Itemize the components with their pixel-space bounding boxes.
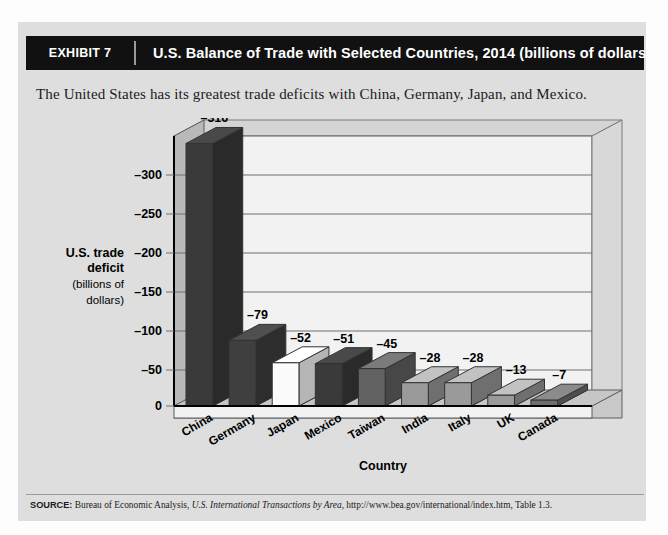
chart-svg: –300 –250 –200 –150 –100 –50 0 U.S. trad… [26, 118, 644, 488]
y-tick-label-1: –250 [134, 207, 162, 221]
exhibit-header: EXHIBIT 7 U.S. Balance of Trade with Sel… [26, 36, 644, 70]
source-label: SOURCE: [30, 500, 72, 510]
bar-chart: –300 –250 –200 –150 –100 –50 0 U.S. trad… [26, 118, 644, 488]
y-tick-label-4: –100 [134, 324, 162, 338]
y-tick-label-6: 0 [155, 399, 162, 413]
y-axis-title-line1: U.S. trade [66, 246, 124, 260]
bar-value-label-india: –28 [419, 351, 440, 365]
y-axis: –300 –250 –200 –150 –100 –50 0 [134, 136, 174, 413]
bar-value-label-china: –316 [200, 118, 228, 125]
bar-value-label-mexico: –51 [333, 332, 354, 346]
exhibit-caption: The United States has its greatest trade… [36, 86, 636, 103]
y-axis-title-line2: deficit [87, 261, 125, 275]
source-divider [26, 494, 644, 495]
chart-right-wall [592, 120, 622, 406]
source-title-italic: U.S. International Transactions by Area [192, 500, 342, 510]
bar-germany [229, 340, 256, 406]
page-margin-right [646, 0, 668, 535]
exhibit-page: EXHIBIT 7 U.S. Balance of Trade with Sel… [0, 0, 668, 535]
bar-value-label-taiwan: –45 [376, 337, 397, 351]
y-axis-title-line3: (billions of [72, 278, 125, 290]
page-margin-left [0, 0, 18, 535]
y-tick-label-0: –300 [134, 168, 162, 182]
bar-mexico [315, 364, 342, 406]
bar-japan [272, 363, 299, 406]
bar-india [402, 383, 429, 406]
source-text-before: Bureau of Economic Analysis, [72, 500, 191, 510]
y-tick-label-5: –50 [141, 363, 162, 377]
y-axis-title: U.S. trade deficit (billions of dollars) [66, 246, 125, 306]
bar-value-label-canada: –7 [552, 368, 566, 382]
bar-uk [488, 395, 515, 406]
source-text-after: , http://www.bea.gov/international/index… [342, 500, 553, 510]
bar-value-label-japan: –52 [290, 331, 311, 345]
source-note: SOURCE: Bureau of Economic Analysis, U.S… [30, 500, 644, 510]
y-tick-label-3: –150 [134, 285, 162, 299]
exhibit-number: EXHIBIT 7 [26, 46, 134, 60]
y-tick-label-2: –200 [134, 246, 162, 260]
exhibit-title: U.S. Balance of Trade with Selected Coun… [136, 45, 651, 61]
bar-value-label-italy: –28 [463, 351, 484, 365]
page-margin-top [0, 0, 668, 22]
bar-taiwan [358, 369, 385, 406]
bar-italy [445, 383, 472, 406]
page-margin-bottom [0, 521, 668, 535]
bar-china [186, 143, 213, 406]
bar-value-label-uk: –13 [506, 363, 527, 377]
bar-value-label-germany: –79 [247, 308, 268, 322]
x-axis-title: Country [359, 459, 407, 473]
y-axis-title-line4: dollars) [86, 294, 124, 306]
